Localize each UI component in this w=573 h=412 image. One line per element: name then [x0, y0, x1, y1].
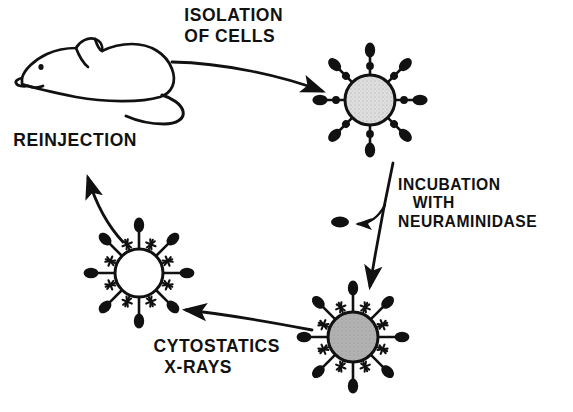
- cell-membrane-desialylated: [328, 312, 378, 362]
- cell-membrane-inactivated: [115, 249, 163, 297]
- label-reinjection: REINJECTION: [13, 130, 137, 151]
- cell-isolated: [312, 42, 427, 157]
- cleaved-sialic-acid-blob: [331, 217, 349, 228]
- cell-membrane-isolated: [345, 75, 395, 125]
- label-incubation-with-neuraminidase: INCUBATION WITH NEURAMINIDASE: [398, 176, 537, 231]
- diagram-canvas: ISOLATION OF CELLS REINJECTION INCUBATIO…: [0, 0, 573, 412]
- label-cytostatics-x-rays: CYTOSTATICS X-RAYS: [154, 336, 281, 377]
- label-isolation-of-cells: ISOLATION OF CELLS: [184, 5, 283, 46]
- cell-desialylated: [297, 281, 410, 394]
- cell-inactivated: [84, 218, 195, 329]
